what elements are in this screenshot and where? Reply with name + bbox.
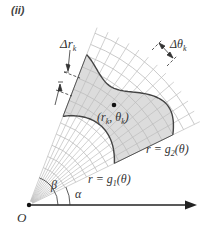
polar-region-diagram: Δrk Δθk (rk, θk) r = g2(θ) r = g1(θ) β α… bbox=[0, 0, 214, 230]
sample-point-label: (rk, θk) bbox=[97, 110, 129, 126]
origin-label: O bbox=[17, 210, 27, 225]
delta-r-label: Δrk bbox=[59, 36, 77, 53]
axis-arrow-icon bbox=[185, 201, 197, 210]
alpha-label: α bbox=[75, 187, 82, 201]
alpha-arc bbox=[66, 187, 70, 205]
panel-label: (ii) bbox=[11, 4, 25, 16]
sample-point bbox=[112, 103, 117, 108]
beta-label: β bbox=[50, 178, 57, 192]
g1-label: r = g1(θ) bbox=[88, 172, 131, 188]
g2-label: r = g2(θ) bbox=[146, 142, 189, 158]
delta-theta-label: Δθk bbox=[169, 37, 187, 53]
origin-point bbox=[27, 203, 31, 207]
